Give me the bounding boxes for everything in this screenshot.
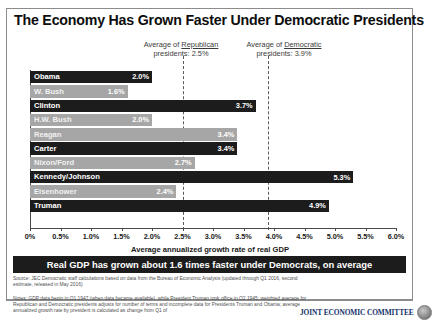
jec-logo: JOINT ECONOMIC COMMITTEE <box>300 303 419 322</box>
bar-value-label: 3.7% <box>236 102 253 109</box>
summary-banner: Real GDP has grown about 1.6 times faste… <box>13 256 406 273</box>
bar-truman[interactable]: Truman4.9% <box>30 200 329 212</box>
page-title: The Economy Has Grown Faster Under Democ… <box>14 12 406 28</box>
bar-label: Reagan <box>34 131 61 139</box>
bar-row: Eisenhower2.4% <box>30 184 396 198</box>
seal-icon <box>417 305 432 320</box>
bar-label: Clinton <box>34 102 60 110</box>
x-tick-label: 3.0% <box>205 232 222 241</box>
x-tick <box>122 228 123 231</box>
republican-average-line2: presidents: 2.5% <box>153 49 208 58</box>
x-tick-label: 4.5% <box>296 232 313 241</box>
bar-row: H.W. Bush2.0% <box>30 113 396 127</box>
x-tick-label: 5.0% <box>327 232 344 241</box>
bar-h-w-bush[interactable]: H.W. Bush2.0% <box>30 114 152 126</box>
x-axis-ticks: 0%0.5%1.0%1.5%2.0%2.5%3.0%3.5%4.0%4.5%5.… <box>30 228 396 242</box>
republican-average-line1: Average of Republican <box>144 40 219 49</box>
x-tick <box>244 228 245 231</box>
bar-label: Nixon/Ford <box>34 159 74 167</box>
x-tick-label: 2.0% <box>144 232 161 241</box>
x-tick <box>305 228 306 231</box>
x-tick-label: 1.0% <box>83 232 100 241</box>
democratic-average-annotation: Average of Democratic presidents: 3.9% <box>232 40 336 58</box>
bar-row: Obama2.0% <box>30 70 396 84</box>
x-tick-label: 2.5% <box>174 232 191 241</box>
x-tick <box>274 228 275 231</box>
x-tick <box>335 228 336 231</box>
x-tick <box>30 228 31 231</box>
democratic-average-line2: presidents: 3.9% <box>256 49 311 58</box>
bar-label: W. Bush <box>34 88 64 96</box>
x-tick-label: 1.5% <box>113 232 130 241</box>
bar-value-label: 2.4% <box>157 188 174 195</box>
x-tick <box>91 228 92 231</box>
bar-value-label: 2.7% <box>175 159 192 166</box>
bar-label: H.W. Bush <box>34 116 72 124</box>
bar-value-label: 3.4% <box>218 145 235 152</box>
bar-value-label: 5.3% <box>333 174 350 181</box>
x-tick <box>213 228 214 231</box>
x-tick <box>366 228 367 231</box>
x-tick-label: 0% <box>25 232 36 241</box>
bar-w-bush[interactable]: W. Bush1.6% <box>30 85 128 97</box>
bar-row: Carter3.4% <box>30 141 396 155</box>
bar-reagan[interactable]: Reagan3.4% <box>30 128 237 140</box>
bar-label: Eisenhower <box>34 188 77 196</box>
bar-row: Reagan3.4% <box>30 127 396 141</box>
bar-value-label: 1.6% <box>108 88 125 95</box>
x-tick-label: 3.5% <box>235 232 252 241</box>
bar-kennedy-johnson[interactable]: Kennedy/Johnson5.3% <box>30 171 353 183</box>
bar-value-label: 3.4% <box>218 131 235 138</box>
republican-average-party: Republican <box>181 40 218 49</box>
bar-clinton[interactable]: Clinton3.7% <box>30 100 256 112</box>
jec-logo-text: JOINT ECONOMIC COMMITTEE <box>300 308 414 317</box>
plot-area: Obama2.0%W. Bush1.6%Clinton3.7%H.W. Bush… <box>30 70 396 227</box>
democratic-average-line1: Average of Democratic <box>246 40 321 49</box>
bar-row: Kennedy/Johnson5.3% <box>30 170 396 184</box>
bar-carter[interactable]: Carter3.4% <box>30 142 237 154</box>
x-tick <box>183 228 184 231</box>
bar-eisenhower[interactable]: Eisenhower2.4% <box>30 185 176 197</box>
bar-label: Carter <box>34 145 56 153</box>
x-tick-label: 6.0% <box>388 232 405 241</box>
bar-row: Clinton3.7% <box>30 99 396 113</box>
source-note: Source: JEC Democratic staff calculation… <box>13 276 313 288</box>
bar-value-label: 2.0% <box>132 116 149 123</box>
bar-nixon-ford[interactable]: Nixon/Ford2.7% <box>30 157 195 169</box>
bar-row: W. Bush1.6% <box>30 84 396 98</box>
bar-label: Obama <box>34 73 60 81</box>
x-tick-label: 5.5% <box>357 232 374 241</box>
x-tick <box>152 228 153 231</box>
bar-value-label: 2.0% <box>132 73 149 80</box>
footer-divider <box>6 300 413 301</box>
x-tick <box>61 228 62 231</box>
democratic-average-party: Democratic <box>284 40 321 49</box>
bar-label: Truman <box>34 202 61 210</box>
x-tick-label: 0.5% <box>52 232 69 241</box>
x-tick-label: 4.0% <box>266 232 283 241</box>
bar-row: Nixon/Ford2.7% <box>30 156 396 170</box>
x-tick <box>396 228 397 231</box>
x-axis-label: Average annualized growth rate of real G… <box>14 245 406 254</box>
bar-obama[interactable]: Obama2.0% <box>30 71 152 83</box>
bar-value-label: 4.9% <box>309 202 326 209</box>
bar-row: Truman4.9% <box>30 199 396 213</box>
methodology-note: Notes: GDP data begin in Q1 1947 (when d… <box>13 296 313 315</box>
bar-label: Kennedy/Johnson <box>34 173 100 181</box>
republican-average-annotation: Average of Republican presidents: 2.5% <box>129 40 233 58</box>
